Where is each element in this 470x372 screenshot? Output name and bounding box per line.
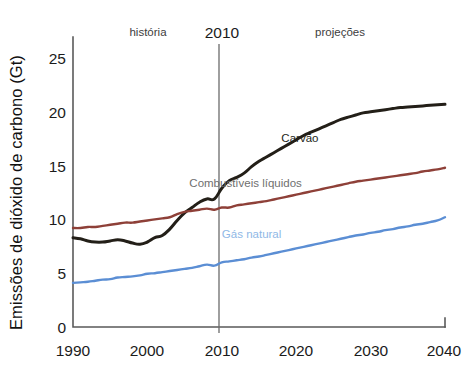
- series-label-gas-natural: Gás natural: [222, 228, 281, 240]
- y-axis-title-text: Emissões de dióxido de carbono (Gt): [7, 55, 25, 330]
- chart-figure: Emissões de dióxido de carbono (Gt) 0 5 …: [0, 0, 470, 372]
- series-label-combustiveis-liquidos: Combustíveis líquidos: [189, 177, 302, 189]
- y-tick-5: 5: [57, 265, 66, 282]
- co2-emissions-line-chart: Emissões de dióxido de carbono (Gt) 0 5 …: [0, 0, 470, 372]
- x-tick-2040: 2040: [427, 342, 462, 359]
- y-tick-10: 10: [49, 211, 67, 228]
- x-tick-2010: 2010: [205, 342, 240, 359]
- y-tick-20: 20: [49, 104, 67, 121]
- series-label-carvao: Carvão: [281, 132, 318, 144]
- x-tick-2020: 2020: [279, 342, 314, 359]
- y-axis-title: Emissões de dióxido de carbono (Gt): [7, 55, 25, 330]
- annotation-year-2010: 2010: [205, 24, 240, 41]
- annotation-projecoes: projeções: [315, 26, 365, 38]
- annotation-historia: história: [129, 26, 167, 38]
- x-tick-2000: 2000: [130, 342, 165, 359]
- x-tick-1990: 1990: [56, 342, 91, 359]
- y-axis-tick-labels: 0 5 10 15 20 25: [49, 50, 67, 336]
- series-lines-group: [73, 104, 445, 283]
- x-axis-tick-labels: 1990 2000 2010 2020 2030 2040: [56, 342, 462, 359]
- x-tick-2030: 2030: [354, 342, 389, 359]
- y-tick-25: 25: [49, 50, 66, 67]
- y-tick-0: 0: [57, 319, 66, 336]
- y-tick-15: 15: [49, 158, 66, 175]
